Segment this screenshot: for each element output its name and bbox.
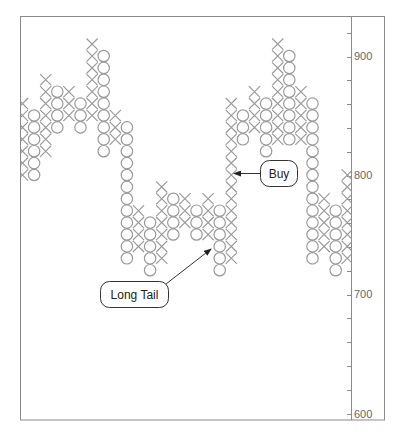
x-box xyxy=(295,98,306,109)
o-box xyxy=(214,217,225,228)
o-box xyxy=(28,110,39,121)
x-box xyxy=(179,217,190,228)
x-box xyxy=(226,253,237,264)
x-box xyxy=(110,134,121,145)
x-box xyxy=(226,217,237,228)
x-box xyxy=(110,110,121,121)
x-box xyxy=(295,122,306,133)
o-box xyxy=(237,134,248,145)
x-box xyxy=(156,229,167,240)
o-box xyxy=(168,193,179,204)
o-column xyxy=(260,98,271,157)
o-box xyxy=(284,98,295,109)
x-box xyxy=(226,122,237,133)
x-box xyxy=(226,205,237,216)
o-box xyxy=(191,205,202,216)
x-box xyxy=(63,86,74,97)
x-box xyxy=(203,205,214,216)
x-box xyxy=(17,110,28,121)
o-box xyxy=(214,205,225,216)
o-box xyxy=(28,146,39,157)
o-box xyxy=(98,62,109,73)
x-box xyxy=(110,122,121,133)
o-box xyxy=(98,74,109,85)
x-column xyxy=(249,86,260,133)
x-box xyxy=(226,110,237,121)
x-box xyxy=(40,98,51,109)
o-box xyxy=(330,265,341,276)
o-box xyxy=(168,205,179,216)
x-box xyxy=(87,74,98,85)
x-box xyxy=(272,110,283,121)
x-box xyxy=(87,110,98,121)
x-box xyxy=(319,229,330,240)
o-box xyxy=(307,146,318,157)
x-box xyxy=(226,158,237,169)
x-column xyxy=(203,193,214,240)
y-axis-tick-labels: 900 800 700 600 xyxy=(354,50,372,420)
x-box xyxy=(249,110,260,121)
x-box xyxy=(133,241,144,252)
tick-label-800: 800 xyxy=(354,169,372,181)
x-box xyxy=(87,39,98,50)
o-box xyxy=(307,169,318,180)
o-box xyxy=(98,146,109,157)
o-box xyxy=(121,241,132,252)
o-box xyxy=(307,181,318,192)
x-box xyxy=(272,86,283,97)
o-box xyxy=(307,122,318,133)
o-box xyxy=(284,50,295,61)
o-column xyxy=(307,98,318,264)
x-box xyxy=(133,205,144,216)
o-box xyxy=(121,217,132,228)
x-box xyxy=(87,98,98,109)
x-column xyxy=(156,181,167,264)
o-box xyxy=(144,241,155,252)
o-column xyxy=(330,205,341,276)
o-box xyxy=(237,122,248,133)
x-box xyxy=(17,169,28,180)
x-box xyxy=(17,134,28,145)
x-box xyxy=(319,241,330,252)
o-box xyxy=(307,157,318,168)
o-box xyxy=(307,110,318,121)
o-box xyxy=(214,229,225,240)
o-column xyxy=(237,110,248,145)
x-box xyxy=(40,74,51,85)
o-box xyxy=(307,98,318,109)
x-box xyxy=(295,86,306,97)
o-box xyxy=(98,134,109,145)
x-box xyxy=(272,122,283,133)
o-box xyxy=(284,122,295,133)
chart-frame xyxy=(21,17,385,421)
long-tail-arrow xyxy=(166,249,211,284)
x-box xyxy=(133,217,144,228)
x-box xyxy=(272,62,283,73)
x-box xyxy=(226,229,237,240)
o-box xyxy=(168,229,179,240)
x-box xyxy=(203,217,214,228)
x-box xyxy=(272,134,283,145)
x-box xyxy=(203,193,214,204)
o-box xyxy=(284,74,295,85)
x-column xyxy=(179,193,190,228)
tick-label-600: 600 xyxy=(354,408,372,420)
o-box xyxy=(144,229,155,240)
pnf-columns xyxy=(17,39,353,276)
o-box xyxy=(168,217,179,228)
o-box xyxy=(52,86,63,97)
x-box xyxy=(226,146,237,157)
x-column xyxy=(272,39,283,145)
o-box xyxy=(75,98,86,109)
o-box xyxy=(121,134,132,145)
o-column xyxy=(52,86,63,133)
o-box xyxy=(121,146,132,157)
x-box xyxy=(40,86,51,97)
x-box xyxy=(295,110,306,121)
x-column xyxy=(295,86,306,145)
x-box xyxy=(156,241,167,252)
x-box xyxy=(203,229,214,240)
x-box xyxy=(156,205,167,216)
o-box xyxy=(52,98,63,109)
o-box xyxy=(237,110,248,121)
